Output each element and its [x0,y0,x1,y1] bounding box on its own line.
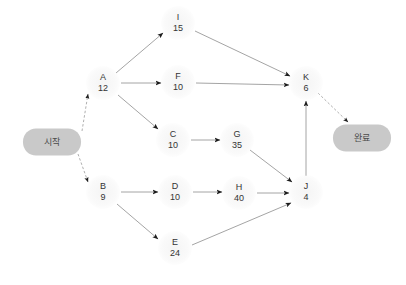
node-e-duration: 24 [170,248,180,259]
node-b-duration: 9 [100,192,105,203]
edge-start-to-a [82,94,88,131]
node-i[interactable]: I15 [161,6,195,40]
diagram-canvas: 시작 완료 A12B9C10D10E24F10G35H40I15J4K6 [0,0,406,285]
edge-a-to-i [116,33,163,73]
node-f-name: F [175,71,181,82]
edge-f-to-k [196,83,289,85]
node-a-duration: 12 [98,83,108,94]
node-g[interactable]: G35 [220,123,254,157]
node-d[interactable]: D10 [158,175,192,209]
node-d-name: D [172,181,179,192]
node-h-duration: 40 [234,193,244,204]
edge-g-to-j [250,150,292,182]
node-j[interactable]: J4 [289,175,323,209]
node-k-duration: 6 [303,83,308,94]
node-k-name: K [303,72,309,83]
node-e-name: E [172,237,178,248]
node-a-name: A [100,72,106,83]
node-i-name: I [177,12,180,23]
edge-start-to-b [78,154,88,182]
node-c-duration: 10 [168,140,178,151]
node-h-name: H [236,182,243,193]
node-i-duration: 15 [173,23,183,34]
node-j-duration: 4 [303,192,308,203]
node-c[interactable]: C10 [156,123,190,157]
node-b-name: B [100,181,106,192]
node-end[interactable]: 완료 [333,125,391,152]
edge-i-to-k [195,31,290,76]
node-h[interactable]: H40 [222,176,256,210]
node-e[interactable]: E24 [158,231,192,265]
node-b[interactable]: B9 [86,175,120,209]
node-a[interactable]: A12 [86,66,120,100]
edge-k-to-end [318,93,348,122]
node-start-label: 시작 [44,137,60,148]
node-c-name: C [170,129,177,140]
node-end-label: 완료 [354,133,370,144]
node-f-duration: 10 [173,82,183,93]
edge-b-to-e [117,204,158,239]
edge-a-to-c [118,95,158,129]
node-f[interactable]: F10 [161,65,195,99]
node-d-duration: 10 [170,192,180,203]
edge-group [78,31,348,245]
node-start[interactable]: 시작 [23,129,81,156]
node-k[interactable]: K6 [289,66,323,100]
node-g-name: G [233,129,240,140]
node-j-name: J [304,181,309,192]
node-g-duration: 35 [232,140,242,151]
